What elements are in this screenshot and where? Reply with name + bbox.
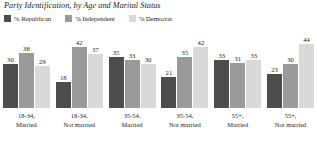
bar[interactable] — [299, 44, 314, 108]
chart-legend: % Republican% Independent% Democrat — [4, 14, 172, 23]
bar[interactable] — [267, 74, 282, 108]
x-axis-label: 18-34,Not married — [53, 111, 106, 133]
legend-swatch-icon — [4, 15, 11, 22]
bar-value-label: 31 — [234, 55, 241, 62]
bar[interactable] — [19, 53, 34, 108]
bar-item[interactable]: 30 — [283, 26, 298, 108]
bar-group: 184237 — [53, 26, 106, 108]
bar-value-label: 29 — [39, 58, 46, 65]
bar-item[interactable]: 35 — [177, 26, 192, 108]
x-axis-label-line: Not married — [53, 120, 106, 129]
bar-value-label: 18 — [60, 74, 67, 81]
x-axis-label: 35-54,Married — [106, 111, 159, 133]
legend-item-label: % Republican — [14, 15, 51, 22]
bar[interactable] — [35, 66, 50, 108]
x-axis-labels: 18-34,Married18-34,Not married35-54,Marr… — [0, 111, 317, 133]
bar[interactable] — [3, 64, 18, 108]
legend-swatch-icon — [65, 15, 72, 22]
bar[interactable] — [283, 64, 298, 108]
bar-item[interactable]: 38 — [19, 26, 34, 108]
bar-item[interactable]: 23 — [267, 26, 282, 108]
bar-item[interactable]: 33 — [214, 26, 229, 108]
chart-title: Party Identification, by Age and Marital… — [4, 1, 161, 11]
bar-item[interactable]: 18 — [56, 26, 71, 108]
x-axis-label-line: 18-34, — [0, 111, 53, 120]
bar-group: 353330 — [106, 26, 159, 108]
bar[interactable] — [214, 60, 229, 108]
bar[interactable] — [161, 77, 176, 108]
bar-value-label: 35 — [113, 49, 120, 56]
bar-item[interactable]: 33 — [125, 26, 140, 108]
bar-value-label: 30 — [7, 56, 14, 63]
bar-item[interactable]: 42 — [193, 26, 208, 108]
legend-item-label: % Independent — [75, 15, 115, 22]
bar-group: 233044 — [264, 26, 317, 108]
x-axis-label: 55+,Not married — [264, 111, 317, 133]
bar[interactable] — [177, 57, 192, 108]
x-axis-label-line: 55+, — [211, 111, 264, 120]
bar-item[interactable]: 37 — [88, 26, 103, 108]
bar-value-label: 21 — [166, 69, 173, 76]
bar-item[interactable]: 42 — [72, 26, 87, 108]
bar-value-label: 42 — [76, 39, 83, 46]
legend-swatch-icon — [129, 15, 136, 22]
x-axis-label-line: Not married — [158, 120, 211, 129]
bar-item[interactable]: 30 — [141, 26, 156, 108]
legend-item-label: % Democrat — [139, 15, 172, 22]
bar[interactable] — [56, 82, 71, 108]
bar-item[interactable]: 31 — [230, 26, 245, 108]
bar-group: 303829 — [0, 26, 53, 108]
bar[interactable] — [109, 57, 124, 108]
plot-area: 303829184237353330213542333133233044 — [0, 26, 317, 108]
x-axis-label-line: Married — [106, 120, 159, 129]
bar-item[interactable]: 30 — [3, 26, 18, 108]
legend-item[interactable]: % Republican — [4, 15, 51, 22]
bar-item[interactable]: 35 — [109, 26, 124, 108]
bar[interactable] — [230, 63, 245, 108]
bar-value-label: 33 — [129, 52, 136, 59]
legend-item[interactable]: % Democrat — [129, 15, 172, 22]
x-axis-label-line: Married — [0, 120, 53, 129]
bar[interactable] — [141, 64, 156, 108]
x-axis-label: 18-34,Married — [0, 111, 53, 133]
bar-value-label: 30 — [287, 56, 294, 63]
bar-value-label: 33 — [218, 52, 225, 59]
x-axis-label-line: Not married — [264, 120, 317, 129]
bar[interactable] — [88, 54, 103, 108]
bar[interactable] — [125, 60, 140, 108]
x-axis-label-line: 35-54, — [158, 111, 211, 120]
bar-value-label: 44 — [303, 36, 310, 43]
bar[interactable] — [246, 60, 261, 108]
bar-value-label: 35 — [182, 49, 189, 56]
x-axis-label-line: Married — [211, 120, 264, 129]
bar-item[interactable]: 44 — [299, 26, 314, 108]
bar[interactable] — [72, 47, 87, 108]
bar-value-label: 42 — [198, 39, 205, 46]
bar-item[interactable]: 33 — [246, 26, 261, 108]
bar-value-label: 33 — [250, 52, 257, 59]
x-axis-label: 35-54,Not married — [158, 111, 211, 133]
bar-chart: Party Identification, by Age and Marital… — [0, 0, 317, 146]
legend-item[interactable]: % Independent — [65, 15, 115, 22]
x-axis-label-line: 55+, — [264, 111, 317, 120]
bar-value-label: 38 — [23, 45, 30, 52]
x-axis-label-line: 18-34, — [53, 111, 106, 120]
bar[interactable] — [193, 47, 208, 108]
x-axis-label-line: 35-54, — [106, 111, 159, 120]
bar-group: 213542 — [158, 26, 211, 108]
bar-item[interactable]: 29 — [35, 26, 50, 108]
bar-item[interactable]: 21 — [161, 26, 176, 108]
x-axis-label: 55+,Married — [211, 111, 264, 133]
bar-value-label: 23 — [271, 66, 278, 73]
bar-group: 333133 — [211, 26, 264, 108]
bar-value-label: 30 — [145, 56, 152, 63]
bar-value-label: 37 — [92, 46, 99, 53]
